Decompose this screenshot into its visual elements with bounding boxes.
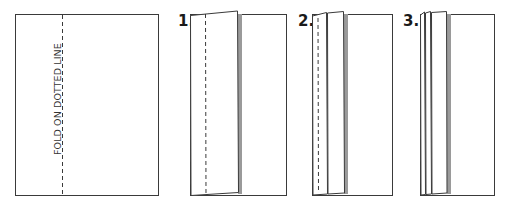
sheet-outline bbox=[16, 15, 159, 196]
step-3-label: 3. bbox=[403, 12, 419, 30]
fold-shadow bbox=[447, 14, 451, 194]
fold-instruction-text: FOLD ON DOTTED LINE bbox=[52, 43, 63, 155]
folded-flap-2 bbox=[328, 12, 345, 195]
panel-unfolded-sheet: FOLD ON DOTTED LINE bbox=[16, 15, 159, 196]
folded-flap-2 bbox=[426, 12, 432, 195]
panel-step-3: 3. bbox=[403, 12, 495, 196]
folded-flap-3 bbox=[432, 12, 448, 195]
panel-step-2: 2. bbox=[298, 12, 393, 196]
folded-flap-1 bbox=[421, 12, 426, 195]
folded-flap bbox=[191, 11, 239, 196]
fold-diagram: FOLD ON DOTTED LINE 1. 2. 3. bbox=[0, 0, 522, 207]
step-2-label: 2. bbox=[298, 12, 314, 30]
panel-step-1: 1. bbox=[178, 11, 287, 196]
folded-flap-1 bbox=[313, 13, 328, 196]
